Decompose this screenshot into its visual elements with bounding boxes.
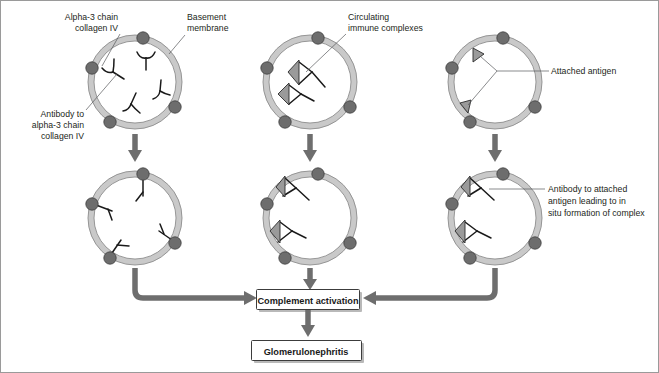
flow-arrow-left-down	[128, 134, 142, 162]
membrane-antigen-dot	[529, 101, 541, 113]
flow-arrow-complement-to-outcome	[301, 310, 315, 337]
bound-antibody	[112, 240, 129, 253]
membrane-antigen-dot	[312, 32, 324, 44]
label-line: situ formation of complex	[548, 208, 645, 218]
membrane-antigen-dot	[279, 116, 291, 128]
bound-antibody	[159, 224, 172, 240]
label-line: Antibody to attached	[548, 184, 627, 194]
membrane-antigen-dot	[169, 101, 181, 113]
free-antibody	[123, 93, 140, 113]
membrane-antigen-dot	[464, 116, 476, 128]
membrane-antigen-dot	[344, 237, 356, 249]
leader-line	[169, 35, 185, 54]
circulating-immune-complex	[288, 60, 325, 87]
flow-arrow-middle-down	[303, 134, 317, 162]
flow-arrow-middle-to-complement	[303, 268, 317, 290]
glomerulonephritis-mechanism-diagram: Complement activation Glomerulonephritis…	[0, 0, 659, 373]
membrane-antigen-dot	[104, 116, 116, 128]
membrane-antigen-dot	[529, 237, 541, 249]
membrane-antigen-dot	[104, 252, 116, 264]
glomerular-capillary-loop-bottom-left	[86, 168, 182, 265]
membrane-antigen-dot	[312, 168, 324, 180]
membrane-antigen-dot	[261, 62, 273, 74]
free-antibody	[153, 80, 170, 99]
glomerular-capillary-loop-top-left	[86, 32, 182, 129]
label-line: immune complexes	[348, 23, 423, 33]
free-antibody	[102, 59, 124, 79]
label-line: Attached antigen	[551, 66, 616, 76]
free-antibody	[137, 52, 155, 70]
membrane-antigen-dot	[497, 32, 509, 44]
diagram-canvas: Complement activation Glomerulonephritis…	[0, 0, 659, 373]
membrane-antigen-dot	[137, 168, 149, 180]
label-line: Circulating	[348, 12, 389, 22]
glomerular-capillary-loop-top-middle	[261, 32, 357, 129]
antigen-triangle	[278, 83, 289, 105]
complement-activation-label: Complement activation	[257, 296, 358, 306]
glomerulonephritis-label: Glomerulonephritis	[264, 347, 349, 357]
glomerular-capillary-loop-bottom-right	[446, 168, 542, 265]
complement-activation-box: Complement activation	[257, 290, 363, 313]
label-line: Alpha-3 chain	[65, 12, 118, 22]
label-line: collagen IV	[41, 131, 84, 141]
circulating-immune-complex	[278, 83, 314, 105]
leader-line	[468, 71, 497, 105]
glomerular-capillary-loop-top-right	[446, 32, 542, 129]
label-line: collagen IV	[75, 23, 118, 33]
label-antibody-alpha3: Antibody to alpha-3 chain collagen IV	[32, 74, 117, 141]
membrane-antigen-dot	[137, 32, 149, 44]
glomerular-capillary-loop-bottom-middle	[261, 168, 357, 265]
attached-antigen-triangle	[473, 48, 484, 62]
label-line: Basement	[187, 12, 227, 22]
antigen-triangle	[288, 60, 299, 85]
membrane-antigen-dot	[261, 198, 273, 210]
membrane-antigen-dot	[446, 198, 458, 210]
flow-arrow-right-down	[488, 134, 502, 162]
bound-antibody	[136, 180, 143, 201]
label-line: antigen leading to in	[548, 196, 626, 206]
membrane-antigen-dot	[169, 237, 181, 249]
glomerulonephritis-box: Glomerulonephritis	[252, 341, 365, 364]
membrane-antigen-dot	[86, 198, 98, 210]
label-line: Antibody to	[41, 109, 85, 119]
label-antibody-attached-antigen: Antibody to attached antigen leading to …	[489, 184, 645, 218]
membrane-antigen-dot	[446, 62, 458, 74]
bound-antibody	[96, 205, 112, 220]
label-alpha3-collagen: Alpha-3 chain collagen IV	[65, 12, 120, 66]
membrane-antigen-dot	[86, 62, 98, 74]
flow-arrow-right-to-complement	[363, 268, 495, 305]
membrane-antigen-dot	[279, 252, 291, 264]
membrane-antigen-dot	[344, 101, 356, 113]
label-basement-membrane: Basement membrane	[169, 12, 229, 54]
flow-arrow-left-to-complement	[135, 268, 257, 305]
label-line: membrane	[187, 23, 229, 33]
membrane-antigen-dot	[497, 168, 509, 180]
membrane-antigen-dot	[464, 252, 476, 264]
label-line: alpha-3 chain	[32, 120, 84, 130]
